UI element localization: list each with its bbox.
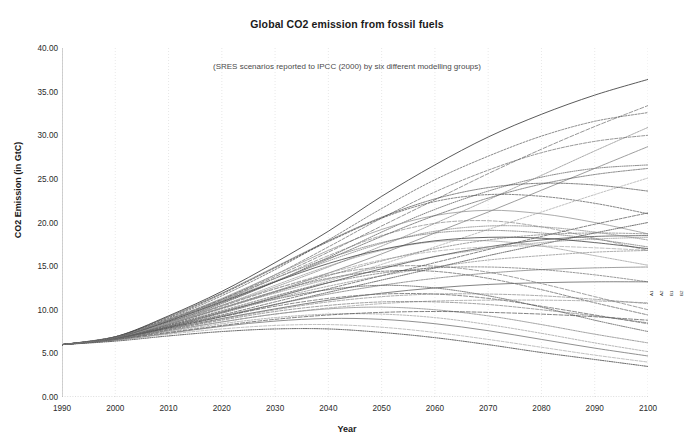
scenario-line [62,194,648,344]
y-axis-tick: 25.00 [38,174,59,183]
x-axis-tick: 2070 [479,404,497,413]
y-axis-tick: 10.00 [38,305,59,314]
x-axis-tick: 1990 [53,404,71,413]
x-axis-tick: 2020 [213,404,231,413]
x-axis-tick: 2000 [106,404,124,413]
chart-container: Global CO2 emission from fossil fuels (S… [0,0,694,445]
gridlines [62,48,648,397]
x-axis-tick: 2090 [586,404,604,413]
x-axis-tick: 2040 [319,404,337,413]
x-axis-tick: 2050 [373,404,391,413]
y-axis-tick: 15.00 [38,262,59,271]
range-bar-label: A1 [649,290,654,295]
scenario-line [62,165,648,345]
x-axis-tick: 2030 [266,404,284,413]
x-axis-label: Year [0,424,694,434]
x-axis-tick: 2100 [639,404,657,413]
scenario-line [62,294,648,345]
chart-title: Global CO2 emission from fossil fuels [0,18,694,30]
x-axis-tick: 2080 [532,404,550,413]
y-axis-tick-group: 0.005.0010.0015.0020.0025.0030.0035.0040… [0,0,58,445]
axis-lines [62,48,648,397]
y-axis-tick: 20.00 [38,218,59,227]
y-axis-tick: 30.00 [38,131,59,140]
y-axis-tick: 35.00 [38,87,59,96]
range-bar-label: B2 [679,290,684,295]
y-axis-tick: 0.00 [42,393,58,402]
series-lines [62,48,648,397]
range-bar-label: A2 [659,290,664,295]
scenario-line [62,294,648,345]
plot-area [62,48,648,397]
y-axis-tick: 40.00 [38,44,59,53]
y-axis-tick: 5.00 [42,349,58,358]
scenario-lines [62,79,648,366]
scenario-line [62,106,648,345]
y-axis-label: CO2 Emission (in GtC) [13,120,23,260]
range-bar-label: B1 [669,290,674,295]
x-axis-tick: 2010 [159,404,177,413]
x-axis-tick: 2060 [426,404,444,413]
scenario-line [62,178,648,345]
scenario-line [62,79,648,344]
